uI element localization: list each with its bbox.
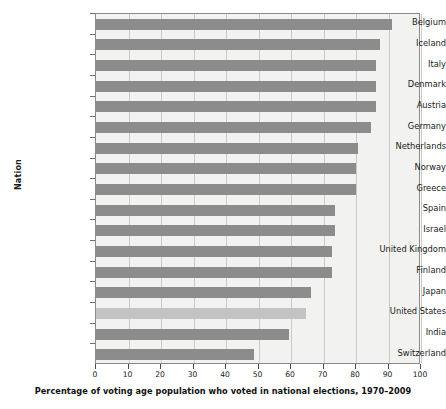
x-tick-label-30: 30 [178, 370, 208, 379]
y-tick-label-united-states: United States [358, 306, 446, 316]
bar-israel [96, 225, 335, 236]
y-tick-mark [90, 343, 95, 344]
x-tick-mark-80 [355, 364, 356, 369]
bar-germany [96, 122, 371, 133]
x-tick-mark-20 [160, 364, 161, 369]
bar-spain [96, 205, 335, 216]
x-tick-label-40: 40 [210, 370, 240, 379]
y-tick-label-united-kingdom: United Kingdom [358, 244, 446, 254]
bar-switzerland [96, 349, 254, 360]
y-tick-label-italy: Italy [358, 59, 446, 69]
x-tick-mark-60 [290, 364, 291, 369]
bar-japan [96, 287, 311, 298]
x-tick-mark-10 [128, 364, 129, 369]
y-tick-label-israel: Israel [358, 224, 446, 234]
x-tick-mark-30 [193, 364, 194, 369]
y-tick-label-norway: Norway [358, 162, 446, 172]
y-tick-mark [90, 281, 95, 282]
y-tick-label-belgium: Belgium [358, 17, 446, 27]
bar-finland [96, 267, 332, 278]
bar-united-states [96, 308, 306, 319]
y-tick-mark [90, 261, 95, 262]
y-tick-label-spain: Spain [358, 203, 446, 213]
x-tick-mark-0 [95, 364, 96, 369]
x-axis-title: Percentage of voting age population who … [0, 386, 446, 396]
x-tick-mark-40 [225, 364, 226, 369]
y-tick-mark [90, 75, 95, 76]
y-tick-mark [90, 219, 95, 220]
y-tick-label-germany: Germany [358, 121, 446, 131]
bar-belgium [96, 19, 392, 30]
bar-italy [96, 60, 376, 71]
x-tick-mark-90 [388, 364, 389, 369]
x-tick-label-90: 90 [373, 370, 403, 379]
x-tick-label-80: 80 [340, 370, 370, 379]
y-tick-label-netherlands: Netherlands [358, 141, 446, 151]
y-tick-mark [90, 240, 95, 241]
bar-norway [96, 163, 356, 174]
y-tick-mark [90, 34, 95, 35]
x-tick-mark-50 [258, 364, 259, 369]
bar-india [96, 329, 289, 340]
y-tick-label-greece: Greece [358, 183, 446, 193]
bar-united-kingdom [96, 246, 332, 257]
y-axis-title: Nation [14, 145, 23, 205]
y-tick-mark [90, 199, 95, 200]
y-tick-label-switzerland: Switzerland [358, 348, 446, 358]
y-tick-mark [90, 302, 95, 303]
bar-austria [96, 101, 376, 112]
x-tick-label-60: 60 [275, 370, 305, 379]
y-tick-label-india: India [358, 327, 446, 337]
x-tick-label-0: 0 [80, 370, 110, 379]
y-tick-mark [90, 178, 95, 179]
y-tick-mark [90, 116, 95, 117]
bar-greece [96, 184, 356, 195]
x-tick-label-50: 50 [243, 370, 273, 379]
bar-netherlands [96, 143, 358, 154]
x-tick-mark-70 [323, 364, 324, 369]
y-tick-label-japan: Japan [358, 286, 446, 296]
y-tick-label-finland: Finland [358, 265, 446, 275]
y-tick-mark [90, 96, 95, 97]
y-tick-label-denmark: Denmark [358, 79, 446, 89]
x-tick-label-100: 100 [405, 370, 435, 379]
y-tick-mark [90, 323, 95, 324]
x-tick-label-20: 20 [145, 370, 175, 379]
bar-denmark [96, 81, 376, 92]
bar-chart: Nation BelgiumIcelandItalyDenmarkAustria… [0, 0, 446, 409]
bar-iceland [96, 39, 380, 50]
y-tick-label-iceland: Iceland [358, 38, 446, 48]
y-tick-mark [90, 158, 95, 159]
y-tick-mark [90, 137, 95, 138]
y-tick-mark [90, 13, 95, 14]
y-tick-label-austria: Austria [358, 100, 446, 110]
x-tick-label-10: 10 [113, 370, 143, 379]
x-tick-label-70: 70 [308, 370, 338, 379]
x-tick-mark-100 [420, 364, 421, 369]
y-tick-mark [90, 54, 95, 55]
